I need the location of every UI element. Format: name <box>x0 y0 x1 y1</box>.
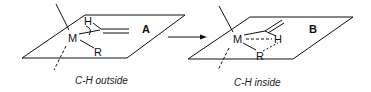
label-b: B <box>309 23 317 35</box>
m-c-bond <box>244 31 265 35</box>
m-r-bond <box>80 40 94 48</box>
m-r-bond <box>243 43 256 50</box>
plane-a <box>22 15 185 58</box>
atom-h-a: H <box>84 15 92 27</box>
rotation-arrow-icon <box>86 26 90 35</box>
reaction-diagram: H M R A C-H outside M H R B C-H inside <box>0 0 371 92</box>
caption-a: C-H outside <box>75 75 128 86</box>
axial-bond-up <box>56 4 69 30</box>
plane-b <box>188 17 353 59</box>
atom-r-b: R <box>256 50 264 62</box>
h-c-bond <box>93 23 101 29</box>
reaction-arrow-icon <box>168 35 207 40</box>
axial-bond-up <box>219 6 233 32</box>
structure-a <box>22 4 185 70</box>
atom-m-b: M <box>233 33 242 45</box>
caption-b: C-H inside <box>234 77 281 88</box>
structure-b <box>188 6 353 70</box>
atom-r-a: R <box>94 46 102 58</box>
atom-m-a: M <box>68 32 77 44</box>
atom-h-b: H <box>274 33 282 45</box>
label-a: A <box>142 23 150 35</box>
